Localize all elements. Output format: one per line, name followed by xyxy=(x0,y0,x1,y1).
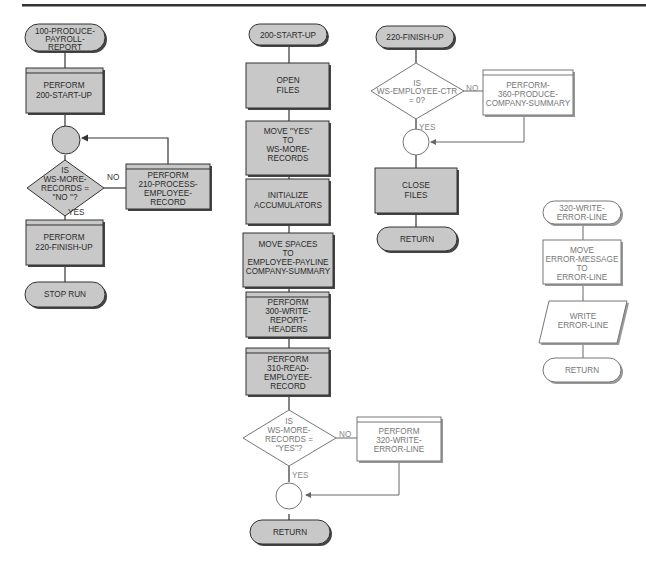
col4-move-error-line1: MOVE xyxy=(570,246,595,255)
header-rule xyxy=(22,4,646,7)
col1-decision-line4: "NO "? xyxy=(53,193,78,202)
col2-perform-read-line3: EMPLOYEE- xyxy=(264,373,312,382)
col4-move-error-line3: TO xyxy=(576,264,587,273)
col2-perform-read-line4: RECORD xyxy=(270,382,306,391)
col1-decision-line3: RECORDS = xyxy=(41,184,89,193)
col1-perform-process-box[interactable]: PERFORM 210-PROCESS- EMPLOYEE- RECORD xyxy=(126,164,212,211)
col2-perform-read-line1: PERFORM xyxy=(268,355,309,364)
col1-stop-run-terminal[interactable]: STOP RUN xyxy=(25,282,107,309)
col4-move-error-line2: ERROR-MESSAGE xyxy=(546,255,619,264)
col2-decision-line4: "YES"? xyxy=(276,444,303,453)
col2-perform-headers-line3: REPORT- xyxy=(270,316,307,325)
col3-start-terminal[interactable]: 220-FINISH-UP xyxy=(376,26,456,50)
col2-connector-circle xyxy=(276,483,302,509)
col3-no-label: NO xyxy=(466,84,478,93)
col1-yes-label: YES xyxy=(68,208,85,217)
col2-return-label: RETURN xyxy=(273,528,307,537)
col3-decision[interactable]: IS WS-EMPLOYEE-CTR = 0? xyxy=(371,63,464,119)
col2-decision-line1: IS xyxy=(285,417,293,426)
col3-perform-summary-box[interactable]: PERFORM- 360-PRODUCE- COMPANY-SUMMARY xyxy=(483,70,575,117)
col2-open-files-line1: OPEN xyxy=(276,76,299,85)
col2-perform-error-line2: 320-WRITE- xyxy=(376,436,422,445)
col3-return-label: RETURN xyxy=(400,235,434,244)
col4-write-error-line2: ERROR-LINE xyxy=(558,321,609,330)
col2-move-spaces-line4: COMPANY-SUMMARY xyxy=(246,267,331,276)
col2-start-label: 200-START-UP xyxy=(260,31,317,40)
col2-initialize-line2: ACCUMULATORS xyxy=(254,201,322,210)
col2-decision-line2: WS-MORE- xyxy=(267,426,310,435)
col2-perform-headers-line2: 300-WRITE- xyxy=(265,307,311,316)
col3-connector-circle xyxy=(403,129,429,155)
col2-move-yes-box[interactable]: MOVE "YES" TO WS-MORE- RECORDS xyxy=(246,121,331,177)
col2-open-files-box[interactable]: OPEN FILES xyxy=(246,63,331,110)
col4-start-terminal[interactable]: 320-WRITE- ERROR-LINE xyxy=(543,201,623,226)
col2-perform-read-box[interactable]: PERFORM 310-READ- EMPLOYEE- RECORD xyxy=(246,348,331,397)
col2-perform-error-line3: ERROR-LINE xyxy=(374,445,425,454)
col2-no-label: NO xyxy=(339,430,351,439)
col1-perform-finish-box[interactable]: PERFORM 220-FINISH-UP xyxy=(26,220,105,267)
col2-start-terminal[interactable]: 200-START-UP xyxy=(249,24,329,47)
col1-perform-startup-line1: PERFORM xyxy=(44,81,85,90)
col2-move-yes-line4: RECORDS xyxy=(268,154,309,163)
col4-return-terminal[interactable]: RETURN xyxy=(543,358,623,384)
col2-perform-headers-box[interactable]: PERFORM 300-WRITE- REPORT- HEADERS xyxy=(246,292,331,339)
col2-initialize-box[interactable]: INITIALIZE ACCUMULATORS xyxy=(246,179,331,226)
col1-perform-finish-line2: 220-FINISH-UP xyxy=(35,243,93,252)
col1-perform-finish-line1: PERFORM xyxy=(44,233,85,242)
col1-perform-process-line4: RECORD xyxy=(150,198,186,207)
col1-flow: 100-PRODUCE- PAYROLL- REPORT PERFORM 200… xyxy=(25,24,212,309)
col3-close-files-line2: FILES xyxy=(405,191,428,200)
col1-start-terminal[interactable]: 100-PRODUCE- PAYROLL- REPORT xyxy=(25,24,107,53)
col1-decision[interactable]: IS WS-MORE- RECORDS = "NO "? xyxy=(27,160,104,216)
col2-move-spaces-line2: TO xyxy=(282,249,293,258)
col3-close-files-line1: CLOSE xyxy=(402,181,430,190)
col2-move-yes-line2: TO xyxy=(282,136,293,145)
col1-start-line3: REPORT xyxy=(48,43,82,52)
col2-decision-line3: RECORDS = xyxy=(265,435,313,444)
col2-perform-headers-line4: HEADERS xyxy=(268,325,308,334)
col2-perform-read-line2: 310-READ- xyxy=(267,364,309,373)
flowchart-canvas: 100-PRODUCE- PAYROLL- REPORT PERFORM 200… xyxy=(0,0,646,565)
col1-stop-run-label: STOP RUN xyxy=(44,290,86,299)
col2-initialize-line1: INITIALIZE xyxy=(268,191,309,200)
col3-start-label: 220-FINISH-UP xyxy=(386,33,444,42)
col4-move-error-box[interactable]: MOVE ERROR-MESSAGE TO ERROR-LINE xyxy=(543,240,623,286)
col4-move-error-line4: ERROR-LINE xyxy=(557,273,608,282)
col4-write-error-io[interactable]: WRITE ERROR-LINE xyxy=(539,301,629,345)
col2-perform-error-line1: PERFORM xyxy=(379,427,420,436)
col2-decision[interactable]: IS WS-MORE- RECORDS = "YES"? xyxy=(243,410,336,466)
col1-perform-process-line2: 210-PROCESS- xyxy=(138,180,197,189)
col3-decision-line2: WS-EMPLOYEE-CTR xyxy=(377,87,458,96)
col1-decision-line1: IS xyxy=(61,166,69,175)
col1-connector-circle xyxy=(52,126,80,154)
col3-return-terminal[interactable]: RETURN xyxy=(377,227,459,253)
col1-perform-process-line3: EMPLOYEE- xyxy=(144,189,192,198)
col1-decision-line2: WS-MORE- xyxy=(43,175,86,184)
col3-close-files-box[interactable]: CLOSE FILES xyxy=(375,168,459,215)
col4-return-label: RETURN xyxy=(565,366,599,375)
col2-move-spaces-box[interactable]: MOVE SPACES TO EMPLOYEE-PAYLINE COMPANY-… xyxy=(243,233,335,289)
col1-perform-startup-box[interactable]: PERFORM 200-START-UP xyxy=(26,68,105,115)
col3-perform-summary-line3: COMPANY-SUMMARY xyxy=(486,99,571,108)
col2-move-yes-line3: WS-MORE- xyxy=(266,145,309,154)
col2-yes-label: YES xyxy=(292,471,309,480)
col2-return-terminal[interactable]: RETURN xyxy=(250,520,332,546)
col3-perform-summary-line1: PERFORM- xyxy=(506,81,550,90)
col3-decision-line3: = 0? xyxy=(409,96,426,105)
col3-perform-summary-line2: 360-PRODUCE- xyxy=(498,90,558,99)
col2-move-spaces-line1: MOVE SPACES xyxy=(259,240,319,249)
col2-move-spaces-line3: EMPLOYEE-PAYLINE xyxy=(247,258,329,267)
col2-perform-error-box[interactable]: PERFORM 320-WRITE- ERROR-LINE xyxy=(357,417,443,463)
col4-flow: 320-WRITE- ERROR-LINE MOVE ERROR-MESSAGE… xyxy=(539,201,629,384)
col2-open-files-line2: FILES xyxy=(277,86,300,95)
col2-perform-headers-line1: PERFORM xyxy=(268,298,309,307)
col1-perform-process-line1: PERFORM xyxy=(148,171,189,180)
col4-write-error-line1: WRITE xyxy=(570,312,597,321)
col4-start-line2: ERROR-LINE xyxy=(557,213,608,222)
col1-perform-startup-line2: 200-START-UP xyxy=(36,91,93,100)
col4-start-line1: 320-WRITE- xyxy=(559,204,605,213)
col2-move-yes-line1: MOVE "YES" xyxy=(264,127,313,136)
col1-no-label: NO xyxy=(107,173,119,182)
